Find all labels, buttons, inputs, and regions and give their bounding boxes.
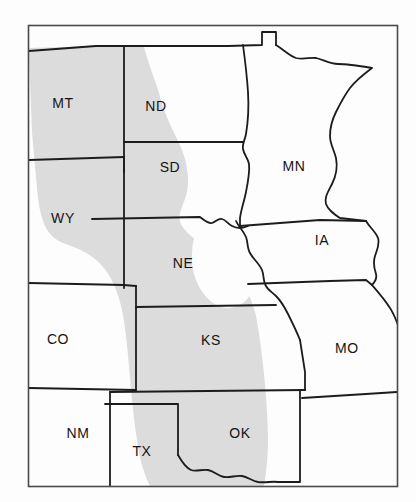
map-figure: MT ND SD MN WY NE IA CO KS MO NM TX OK (0, 0, 416, 502)
map-canvas: MT ND SD MN WY NE IA CO KS MO NM TX OK (0, 0, 416, 502)
